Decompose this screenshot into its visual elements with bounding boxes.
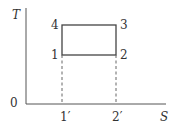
origin-label: 0 <box>10 96 18 110</box>
point-2-label: 2 <box>120 48 128 62</box>
tick-1prime-label: 1′ <box>60 110 71 124</box>
ts-diagram: T S 0 4 3 1 2 1′ 2′ <box>0 0 179 127</box>
cycle-rectangle <box>62 25 116 55</box>
point-4-label: 4 <box>51 18 59 32</box>
y-axis-label: T <box>12 8 21 22</box>
tick-2prime-label: 2′ <box>112 110 123 124</box>
point-3-label: 3 <box>120 18 128 32</box>
x-axis-label: S <box>160 110 168 124</box>
point-1-label: 1 <box>51 48 59 62</box>
